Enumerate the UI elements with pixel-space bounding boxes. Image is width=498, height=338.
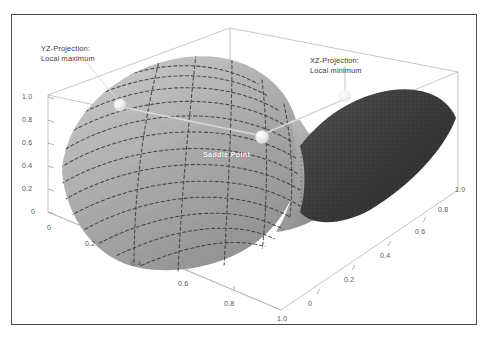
saddle-point-marker[interactable] xyxy=(255,130,268,143)
y-tick-label: 0 xyxy=(308,300,312,307)
z-tick-label: 0.2 xyxy=(22,185,32,192)
annotation-xz-projection: XZ-Projection: Local minimum xyxy=(310,56,362,75)
z-tick-label: 1.0 xyxy=(22,93,32,100)
surface-mesh xyxy=(62,56,468,270)
y-tick-label: 0.6 xyxy=(415,228,425,235)
x-tick-label: 0.8 xyxy=(224,300,234,307)
x-tick-label: 0.6 xyxy=(178,280,188,287)
z-tick-label: 0.4 xyxy=(22,162,32,169)
x-tick-label: 0.4 xyxy=(131,260,141,267)
local-maximum-marker[interactable] xyxy=(114,99,126,111)
x-tick-label: 0.2 xyxy=(85,240,95,247)
local-minimum-marker[interactable] xyxy=(339,90,350,101)
x-tick-label: 0 xyxy=(47,224,51,231)
leader-max-to-label xyxy=(86,62,118,100)
figure-root: · · ·· · · xyxy=(0,0,498,338)
z-tick-label: 0.8 xyxy=(22,116,32,123)
annotation-yz-line1: YZ-Projection: xyxy=(41,44,95,54)
saddle-point-label: Saddle Point xyxy=(203,150,250,159)
z-tick-label: 0.6 xyxy=(22,139,32,146)
x-tick-label: 1.0 xyxy=(277,315,287,322)
y-tick-label: 0.8 xyxy=(438,206,448,213)
annotation-xz-line2: Local minimum xyxy=(310,66,362,76)
y-tick-label: 0.4 xyxy=(380,252,390,259)
y-tick-label: 1.0 xyxy=(455,186,465,193)
annotation-yz-line2: Local maximum xyxy=(41,54,95,64)
annotation-yz-projection: YZ-Projection: Local maximum xyxy=(41,44,95,63)
y-tick-label: 0.2 xyxy=(344,276,354,283)
annotation-xz-line1: XZ-Projection: xyxy=(310,56,362,66)
z-tick-label: 0 xyxy=(31,208,35,215)
